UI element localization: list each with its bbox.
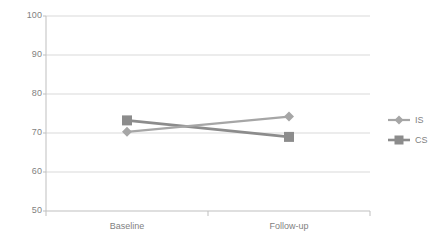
data-point-cs-followup (284, 132, 294, 142)
legend-diamond-icon (395, 116, 404, 125)
plot-area-background (46, 16, 370, 211)
y-tick-label-80: 80 (14, 88, 42, 98)
data-point-cs-baseline (122, 115, 132, 125)
legend-marker-is (388, 116, 410, 125)
y-tick-label-50: 50 (14, 205, 42, 215)
legend-marker-cs (388, 136, 410, 145)
y-tick-label-90: 90 (14, 49, 42, 59)
y-tick-label-100: 100 (14, 10, 42, 20)
x-tick-label-followup: Follow-up (249, 221, 329, 231)
legend-label-is: IS (415, 115, 424, 125)
chart-canvas (0, 0, 442, 244)
y-tick-label-60: 60 (14, 166, 42, 176)
x-tick-label-baseline: Baseline (87, 221, 167, 231)
legend-label-cs: CS (415, 135, 428, 145)
line-chart: 100 90 80 70 60 50 Baseline Follow-up IS… (0, 0, 442, 244)
y-tick-label-70: 70 (14, 127, 42, 137)
legend-square-icon (395, 136, 404, 145)
